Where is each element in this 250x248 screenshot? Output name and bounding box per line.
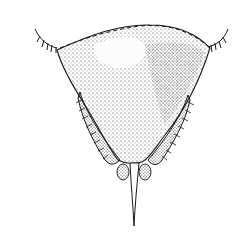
terminal-spine [130, 163, 139, 226]
right-margin [208, 29, 228, 52]
left-margin [35, 29, 57, 53]
illustration-canvas [0, 0, 250, 248]
tergite-drawing [0, 0, 250, 248]
